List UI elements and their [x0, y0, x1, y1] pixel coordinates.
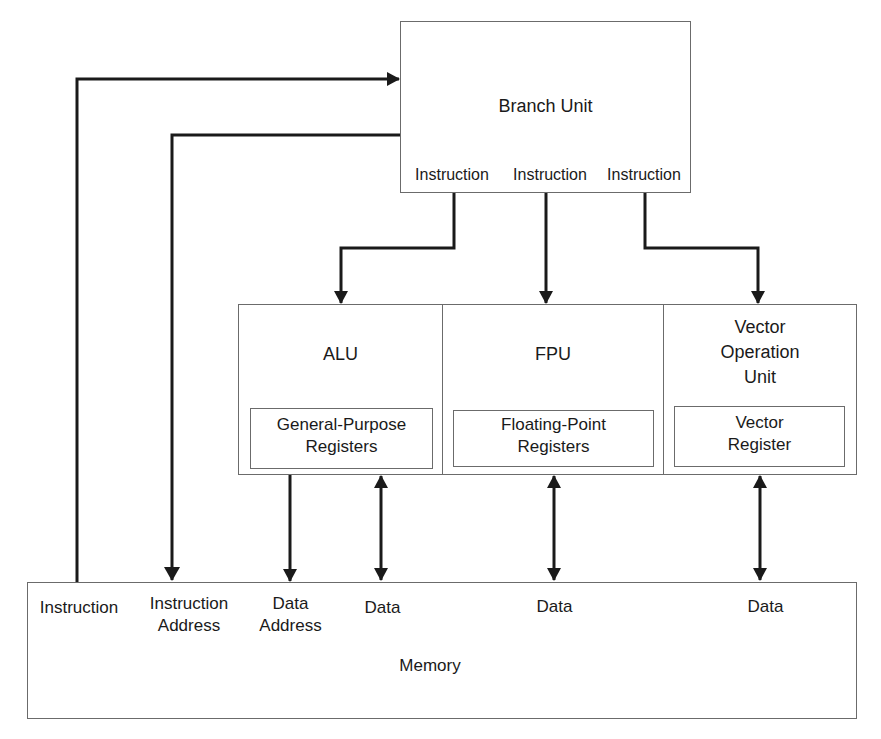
memory-port-data-fpu: Data — [522, 596, 587, 618]
memory-title: Memory — [350, 655, 510, 677]
branch-output-label-2: Instruction — [502, 164, 598, 186]
memory-port-instruction: Instruction — [27, 597, 131, 619]
memory-port-data-alu: Data — [350, 597, 415, 619]
fpu-title: FPU — [442, 343, 664, 365]
general-purpose-registers-label: General-Purpose Registers — [250, 414, 433, 458]
floating-point-registers-label: Floating-Point Registers — [453, 414, 654, 458]
alu-title: ALU — [238, 343, 443, 365]
memory-port-data-address: Data Address — [248, 593, 333, 637]
memory-port-data-vector: Data — [733, 596, 798, 618]
memory-port-instruction-address: Instruction Address — [134, 593, 244, 637]
vector-register-label: Vector Register — [674, 412, 845, 456]
branch-output-label-3: Instruction — [598, 164, 690, 186]
vector-unit-title: Vector Operation Unit — [663, 315, 857, 390]
branch-unit-title: Branch Unit — [400, 95, 691, 117]
branch-output-label-1: Instruction — [404, 164, 500, 186]
